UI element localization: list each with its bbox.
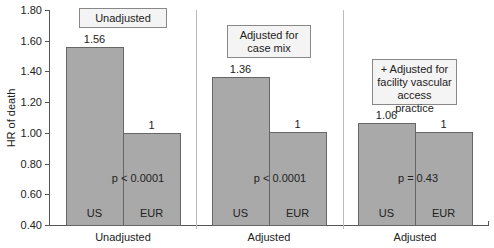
bar-value: 1.36 — [212, 63, 269, 75]
annotation-line: case mix — [232, 42, 306, 55]
y-tick — [45, 194, 49, 195]
y-tick — [45, 71, 49, 72]
y-tick — [45, 225, 49, 226]
y-tick-label: 1.60 — [2, 35, 42, 47]
bar-value: 1 — [415, 118, 472, 130]
y-tick-label: 1.00 — [2, 127, 42, 139]
p-value: p = 0.43 — [398, 172, 438, 184]
group-divider — [343, 10, 344, 229]
annotation-box: + Adjusted for facility vascular access … — [372, 59, 457, 105]
group-divider — [196, 10, 197, 229]
p-value: p < 0.0001 — [112, 172, 164, 184]
x-category-label: Adjusted — [394, 231, 437, 243]
bar-label: EUR — [123, 207, 180, 219]
bar-value: 1.06 — [358, 109, 415, 121]
bar-value: 1 — [123, 119, 180, 131]
bar-label: EUR — [269, 207, 326, 219]
bar-label: US — [66, 207, 123, 219]
y-tick — [45, 10, 49, 11]
bar-label: US — [358, 207, 415, 219]
bar-value: 1.56 — [66, 33, 123, 45]
bar-label: US — [212, 207, 269, 219]
y-tick — [45, 102, 49, 103]
y-axis — [49, 10, 50, 225]
x-category-label: Adjusted — [248, 231, 291, 243]
p-value: p < 0.0001 — [254, 172, 306, 184]
bar-label: EUR — [415, 207, 472, 219]
y-tick-label: 0.60 — [2, 188, 42, 200]
annotation-line: Adjusted for — [232, 29, 306, 42]
annotation-box: Adjusted for case mix — [227, 25, 311, 58]
bar-us — [66, 47, 124, 226]
y-tick-label: 1.80 — [2, 4, 42, 16]
bar-us — [212, 77, 270, 226]
y-tick — [45, 41, 49, 42]
y-tick — [45, 133, 49, 134]
y-tick-label: 0.80 — [2, 158, 42, 170]
annotation-line: + Adjusted for — [377, 63, 452, 76]
y-tick-label: 0.40 — [2, 219, 42, 231]
annotation-line: facility vascular — [377, 76, 452, 89]
y-tick-label: 1.20 — [2, 96, 42, 108]
y-tick-label: 1.40 — [2, 65, 42, 77]
x-axis-end-tick — [488, 221, 489, 226]
annotation-box: Unadjusted — [79, 8, 167, 28]
bar-value: 1 — [269, 118, 326, 130]
x-category-label: Unadjusted — [95, 231, 151, 243]
y-tick — [45, 164, 49, 165]
